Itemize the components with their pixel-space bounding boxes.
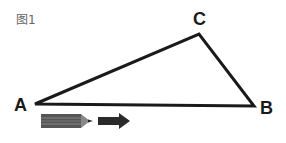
pencil-icon <box>41 114 93 128</box>
arrow-right-icon <box>98 113 130 129</box>
vertex-label-c: C <box>193 10 206 28</box>
vertex-label-a: A <box>14 96 27 114</box>
triangle-diagram <box>0 0 286 143</box>
triangle-abc <box>35 34 254 106</box>
vertex-label-b: B <box>260 99 273 117</box>
